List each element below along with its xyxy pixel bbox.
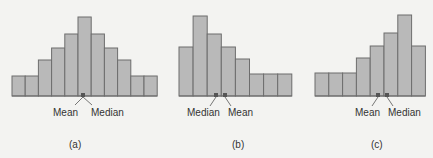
histogram-b [179, 16, 292, 96]
caption-a: (a) [69, 139, 81, 150]
histogram-bar [207, 34, 221, 96]
histogram-c [315, 15, 425, 96]
median-pointer [83, 97, 92, 105]
mean-label: Mean [355, 107, 380, 118]
histogram-a [12, 17, 157, 96]
markers-c: Mean Median (c) [355, 93, 421, 150]
markers-a: Mean Median (a) [53, 93, 124, 150]
histogram-bar [118, 60, 131, 96]
histogram-bar [235, 59, 249, 96]
mean-pointer [75, 97, 83, 105]
median-pointer [387, 97, 393, 106]
histogram-bar [315, 73, 329, 96]
median-label: Median [91, 107, 124, 118]
histogram-bar [384, 33, 398, 96]
caption-b: (b) [232, 139, 244, 150]
markers-b: Median Mean (b) [187, 93, 253, 150]
histogram-bar [104, 48, 117, 96]
histogram-bar [370, 46, 384, 96]
median-label: Median [388, 107, 421, 118]
mean-pointer [225, 97, 231, 106]
median-label: Median [187, 107, 220, 118]
caption-c: (c) [371, 139, 383, 150]
histogram-bar [329, 73, 343, 96]
mean-marker [376, 93, 380, 97]
histogram-bar [250, 74, 264, 96]
histogram-bar [91, 34, 104, 96]
median-marker [385, 93, 389, 97]
histogram-bar [356, 58, 370, 96]
mean-label: Mean [53, 107, 78, 118]
mean-label: Mean [228, 107, 253, 118]
histogram-bar [193, 16, 207, 96]
histogram-bar [78, 17, 91, 96]
histogram-figure: Mean Median (a) Median Mean (b) Mean Med… [0, 0, 433, 158]
histogram-bar [412, 46, 426, 96]
histogram-bar [398, 15, 412, 96]
histogram-bar [144, 76, 157, 96]
histogram-bar [52, 48, 65, 96]
mean-median-marker [81, 93, 85, 97]
histogram-bar [343, 73, 357, 96]
histogram-bar [221, 47, 235, 96]
histogram-bar [38, 60, 51, 96]
histogram-bar [179, 47, 193, 96]
histogram-bar [65, 34, 78, 96]
histogram-bar [278, 74, 292, 96]
median-pointer [210, 97, 216, 106]
histogram-bar [12, 76, 25, 96]
median-marker [214, 93, 218, 97]
histogram-bar [131, 76, 144, 96]
histogram-bar [25, 76, 38, 96]
mean-marker [223, 93, 227, 97]
histogram-bar [264, 74, 278, 96]
mean-pointer [372, 97, 378, 106]
